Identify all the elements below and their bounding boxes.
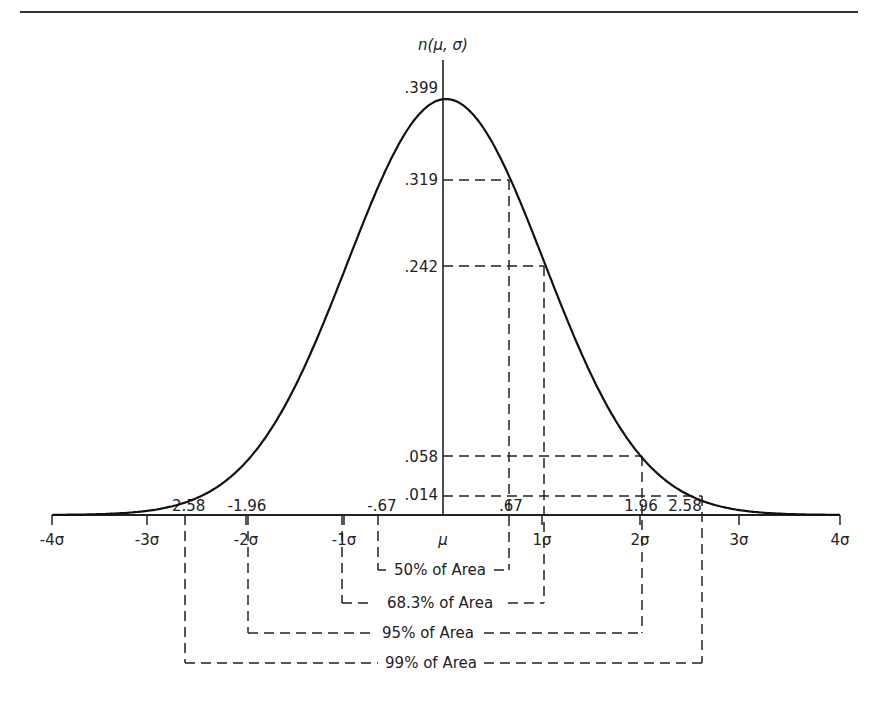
area-label-50: 50% of Area (394, 561, 486, 579)
x-marker-label: -1.96 (228, 497, 267, 515)
x-tick-label: 4σ (830, 531, 850, 549)
x-tick-label: -1σ (332, 531, 357, 549)
y-tick-label: .058 (405, 448, 438, 466)
area-brackets (185, 570, 702, 663)
y-tick-label: .014 (405, 486, 438, 504)
x-tick-label-mu: μ (437, 531, 448, 549)
x-tick-label: -4σ (40, 531, 65, 549)
x-marker-label: 1.96 (624, 497, 657, 515)
y-tick-label: .399 (405, 79, 438, 97)
x-ticks (52, 515, 840, 525)
x-marker-label: -.67 (367, 497, 396, 515)
normal-distribution-chart: n(μ, σ) -4σ -3σ -2σ -1σ μ 1σ 2σ 3σ 4σ -2… (0, 0, 878, 704)
area-label-68: 68.3% of Area (387, 594, 493, 612)
normal-curve (52, 99, 840, 515)
x-tick-label: 2σ (630, 531, 650, 549)
y-tick-label: .242 (405, 258, 438, 276)
area-label-95: 95% of Area (382, 624, 474, 642)
x-tick-label: 1σ (532, 531, 552, 549)
x-tick-label: -2σ (234, 531, 259, 549)
x-tick-label: 3σ (729, 531, 749, 549)
x-marker-label: .67 (499, 497, 523, 515)
y-axis-label: n(μ, σ) (418, 36, 468, 54)
y-tick-label: .319 (405, 171, 438, 189)
x-tick-label: -3σ (135, 531, 160, 549)
area-label-99: 99% of Area (385, 654, 477, 672)
